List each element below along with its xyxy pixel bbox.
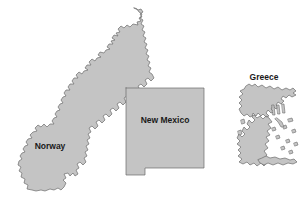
new-mexico-landmass[interactable] bbox=[126, 88, 204, 175]
greece-island-aegean-6 bbox=[294, 142, 298, 146]
region-new-mexico[interactable]: New Mexico bbox=[126, 88, 204, 175]
greece-peninsula-3 bbox=[282, 104, 285, 113]
greece-island-aegean-9 bbox=[272, 127, 276, 131]
greece-island-aegean-3 bbox=[292, 129, 296, 133]
greece-island-ionian-1 bbox=[241, 119, 245, 124]
greece-label: Greece bbox=[250, 72, 279, 82]
map-svg: Norway New Mexico bbox=[0, 0, 304, 199]
norway-label: Norway bbox=[35, 141, 66, 151]
greece-island-aegean-1 bbox=[288, 118, 293, 122]
greece-island-aegean-4 bbox=[276, 135, 280, 139]
greece-island-aegean-5 bbox=[286, 139, 290, 143]
greece-island-crete[interactable] bbox=[258, 156, 297, 165]
new-mexico-label: New Mexico bbox=[141, 115, 190, 125]
map-canvas: Norway New Mexico bbox=[0, 0, 304, 199]
region-greece[interactable]: Greece bbox=[237, 72, 298, 166]
greece-peninsula-2 bbox=[277, 105, 280, 114]
greece-island-ionian-2 bbox=[238, 130, 242, 135]
greece-mainland[interactable] bbox=[237, 84, 296, 166]
greece-island-evia bbox=[275, 118, 284, 127]
greece-island-aegean-8 bbox=[289, 150, 293, 154]
greece-island-aegean-7 bbox=[281, 146, 285, 150]
